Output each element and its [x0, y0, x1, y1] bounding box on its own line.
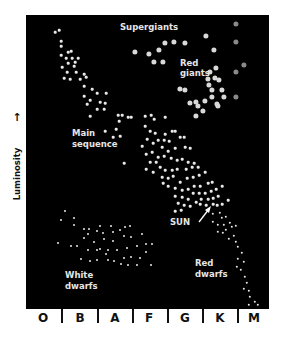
- spectral-class-f: F: [132, 311, 166, 325]
- diagram-plot-area: Supergiants Red giants Main sequence SUN…: [26, 15, 269, 309]
- spectral-class-b: B: [63, 311, 97, 325]
- y-axis: ↑ Luminosity: [10, 112, 24, 206]
- up-arrow-icon: ↑: [12, 112, 21, 123]
- spectral-class-a: A: [98, 311, 132, 325]
- spectral-class-m: M: [237, 311, 271, 325]
- x-axis-spectral-classes: O B A F G K M: [26, 309, 269, 337]
- sun-pointer-arrow-icon: [26, 15, 269, 309]
- spectral-class-g: G: [168, 311, 202, 325]
- spectral-class-o: O: [26, 311, 60, 325]
- y-axis-label: Luminosity: [12, 148, 22, 201]
- spectral-class-k: K: [203, 311, 237, 325]
